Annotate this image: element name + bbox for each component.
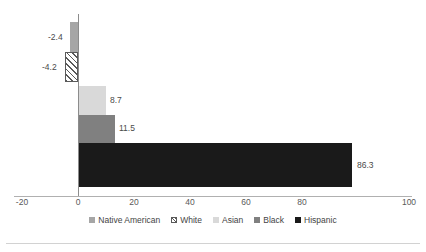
data-label-black: 11.5 — [119, 124, 135, 133]
data-label-white: -4.2 — [42, 63, 57, 72]
x-tick-label-60: 60 — [241, 198, 250, 207]
bar-black[interactable] — [79, 115, 115, 143]
legend-label-black: Black — [263, 216, 284, 225]
legend-item-hispanic[interactable]: Hispanic — [295, 216, 337, 225]
x-tick-label-100: 100 — [402, 198, 416, 207]
bottom-divider — [6, 243, 420, 244]
x-tick-label--20: -20 — [16, 198, 28, 207]
x-tick-label-20: 20 — [129, 198, 138, 207]
bar-native-american[interactable] — [70, 22, 78, 52]
x-tick-label-40: 40 — [185, 198, 194, 207]
x-tick-label-0: 0 — [76, 198, 81, 207]
data-label-native-american: -2.4 — [48, 33, 63, 42]
legend-label-asian: Asian — [222, 216, 243, 225]
legend-swatch-icon-native-american — [89, 217, 95, 223]
legend-label-hispanic: Hispanic — [304, 216, 337, 225]
bar-hispanic[interactable] — [79, 143, 352, 187]
x-tick-label-80: 80 — [297, 198, 306, 207]
legend-swatch-icon-black — [254, 217, 260, 223]
legend-swatch-icon-white — [171, 217, 177, 223]
legend-label-native-american: Native American — [98, 216, 160, 225]
legend-item-black[interactable]: Black — [254, 216, 284, 225]
zero-axis-line — [78, 14, 79, 196]
legend-swatch-icon-asian — [213, 217, 219, 223]
bar-asian[interactable] — [79, 86, 107, 115]
legend-item-asian[interactable]: Asian — [213, 216, 243, 225]
chart-legend: Native American White Asian Black Hispan… — [0, 216, 426, 225]
bar-white[interactable] — [65, 52, 78, 82]
legend-swatch-icon-hispanic — [295, 217, 301, 223]
x-axis-line — [14, 196, 412, 197]
data-label-hispanic: 86.3 — [357, 161, 374, 170]
data-label-asian: 8.7 — [110, 96, 122, 105]
legend-label-white: White — [180, 216, 202, 225]
plot-area: -2.4 -4.2 8.7 11.5 86.3 -20 0 20 40 60 8… — [0, 0, 426, 200]
legend-item-white[interactable]: White — [171, 216, 202, 225]
bar-chart: -2.4 -4.2 8.7 11.5 86.3 -20 0 20 40 60 8… — [0, 0, 426, 252]
legend-item-native-american[interactable]: Native American — [89, 216, 160, 225]
